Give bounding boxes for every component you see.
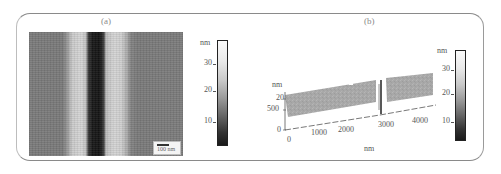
surface-right-segment [386, 73, 433, 102]
surface-left-segment [285, 80, 376, 117]
colorbar-b-tick: 20 [432, 88, 450, 97]
y-axis-tick: 500 [267, 104, 279, 113]
colorbar-b-gradient [455, 50, 466, 141]
x-axis-tick: 3000 [378, 120, 394, 129]
colorbar-b-tick: 10 [432, 116, 450, 125]
x-axis-tick: 4000 [412, 116, 428, 125]
y-axis-tick: 0 [277, 125, 281, 134]
x-axis-tick: 1000 [311, 128, 327, 137]
x-axis-tick: 2000 [338, 125, 354, 134]
x-axis-tick: 0 [287, 135, 291, 144]
3d-surface-plot [0, 0, 501, 174]
colorbar-b-tick: 30 [432, 64, 450, 73]
x-axis-label: nm [364, 144, 374, 153]
z-axis-tick: 20 [276, 93, 284, 102]
z-axis-unit: nm [272, 80, 282, 89]
colorbar-b-unit: nm [437, 46, 447, 55]
